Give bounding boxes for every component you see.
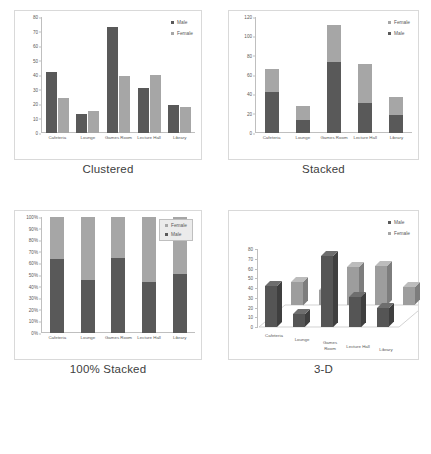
stacked-segment-female bbox=[265, 69, 279, 92]
stacked-legend: FemaleMale bbox=[388, 20, 410, 36]
stacked-bar-group bbox=[350, 17, 381, 133]
clustered-y-tick: 30 bbox=[33, 87, 38, 92]
hundred-plot-area: 0%10%20%30%40%50%60%70%80%90%100% Cafete… bbox=[15, 211, 201, 359]
chart-figure: 01020304050607080 CafeteriaLoungeGames R… bbox=[0, 0, 431, 454]
threed-bar-solid bbox=[291, 276, 310, 306]
clustered-legend-label: Male bbox=[177, 20, 187, 25]
stacked-segment-male bbox=[389, 115, 403, 133]
hundred-y-tick: 10% bbox=[29, 319, 38, 324]
hundred-caption: 100% Stacked bbox=[0, 363, 216, 375]
clustered-x-label: Lounge bbox=[73, 134, 104, 146]
clustered-plot-panel: 01020304050607080 CafeteriaLoungeGames R… bbox=[14, 10, 202, 160]
hundred-y-tick: 70% bbox=[29, 249, 38, 254]
threed-bar-female bbox=[375, 266, 387, 305]
hundred-legend-label: Female bbox=[171, 223, 187, 228]
clustered-y-tick: 0 bbox=[35, 131, 38, 136]
clustered-bar bbox=[46, 72, 57, 133]
hundred-x-label: Cafeteria bbox=[42, 334, 73, 346]
hundred-segment-female bbox=[111, 217, 125, 258]
stacked-x-label: Lounge bbox=[287, 134, 318, 146]
hundred-x-label: Lecture Hall bbox=[134, 334, 165, 346]
hundred-y-tick: 50% bbox=[29, 273, 38, 278]
legend-swatch-icon bbox=[388, 32, 391, 35]
threed-bar-solid bbox=[349, 291, 368, 328]
legend-swatch-icon bbox=[388, 221, 391, 224]
threed-x-label: Lecture Hall bbox=[345, 344, 371, 350]
panel-hundred-stacked: 0%10%20%30%40%50%60%70%80%90%100% Cafete… bbox=[0, 200, 216, 400]
threed-legend: MaleFemale bbox=[388, 220, 410, 236]
hundred-segment-male bbox=[173, 274, 187, 333]
clustered-bar bbox=[107, 27, 118, 133]
hundred-y-tick: 30% bbox=[29, 296, 38, 301]
stacked-y-axis: 020406080100120 bbox=[233, 17, 255, 133]
clustered-x-label: Cafeteria bbox=[42, 134, 73, 146]
panel-clustered: 01020304050607080 CafeteriaLoungeGames R… bbox=[0, 0, 216, 200]
clustered-legend-item: Male bbox=[171, 20, 193, 25]
clustered-legend-label: Female bbox=[177, 31, 193, 36]
hundred-legend-item: Female bbox=[165, 223, 187, 228]
legend-swatch-icon bbox=[165, 233, 168, 236]
legend-swatch-icon bbox=[171, 32, 174, 35]
stacked-x-label: Library bbox=[381, 134, 412, 146]
clustered-y-tick: 20 bbox=[33, 102, 38, 107]
hundred-y-tick: 40% bbox=[29, 284, 38, 289]
threed-bar-female bbox=[403, 287, 415, 305]
hundred-y-tick: 0% bbox=[31, 331, 38, 336]
clustered-bar bbox=[150, 75, 161, 133]
stacked-bar-group bbox=[318, 17, 349, 133]
stacked-x-label: Cafeteria bbox=[256, 134, 287, 146]
clustered-bar bbox=[168, 105, 179, 133]
stacked-plot-area: 020406080100120 CafeteriaLoungeGames Roo… bbox=[229, 11, 418, 159]
clustered-legend: MaleFemale bbox=[171, 20, 193, 36]
hundred-segment-female bbox=[142, 217, 156, 282]
clustered-y-axis: 01020304050607080 bbox=[19, 17, 41, 133]
clustered-x-label: Games Room bbox=[103, 134, 134, 146]
hundred-y-axis: 0%10%20%30%40%50%60%70%80%90%100% bbox=[19, 217, 41, 333]
clustered-bar-group bbox=[134, 17, 165, 133]
threed-bar-solid bbox=[265, 280, 284, 328]
clustered-caption: Clustered bbox=[0, 163, 216, 175]
stacked-plot-panel: 020406080100120 CafeteriaLoungeGames Roo… bbox=[228, 10, 419, 160]
clustered-x-labels: CafeteriaLoungeGames RoomLecture HallLib… bbox=[42, 134, 195, 146]
hundred-segment-male bbox=[50, 259, 64, 333]
panel-stacked: 020406080100120 CafeteriaLoungeGames Roo… bbox=[216, 0, 431, 200]
stacked-x-label: Games Room bbox=[318, 134, 349, 146]
clustered-bar bbox=[58, 98, 69, 133]
stacked-legend-item: Female bbox=[388, 20, 410, 25]
threed-x-label: Lounge bbox=[289, 337, 315, 343]
stacked-legend-label: Female bbox=[394, 20, 410, 25]
stacked-bar bbox=[327, 25, 341, 133]
threed-legend-item: Female bbox=[388, 231, 410, 236]
stacked-segment-female bbox=[358, 64, 372, 103]
stacked-y-tick: 20 bbox=[247, 111, 252, 116]
stacked-segment-male bbox=[296, 120, 310, 133]
legend-swatch-icon bbox=[165, 224, 168, 227]
legend-swatch-icon bbox=[388, 21, 391, 24]
threed-bar-male bbox=[265, 286, 277, 327]
stacked-segment-female bbox=[389, 97, 403, 114]
threed-legend-label: Female bbox=[394, 231, 410, 236]
clustered-bar bbox=[180, 107, 191, 133]
threed-bar-male bbox=[349, 297, 361, 327]
hundred-bar-group bbox=[42, 217, 73, 333]
stacked-bar bbox=[296, 106, 310, 133]
hundred-bar-group bbox=[103, 217, 134, 333]
clustered-bar bbox=[76, 114, 87, 133]
hundred-bar-group bbox=[73, 217, 104, 333]
clustered-y-tick: 10 bbox=[33, 116, 38, 121]
clustered-x-label: Lecture Hall bbox=[134, 134, 165, 146]
hundred-y-tick: 20% bbox=[29, 307, 38, 312]
hundred-legend-item: Male bbox=[165, 232, 187, 237]
stacked-y-tick: 0 bbox=[249, 131, 252, 136]
clustered-bar-group bbox=[42, 17, 73, 133]
hundred-plot-panel: 0%10%20%30%40%50%60%70%80%90%100% Cafete… bbox=[14, 210, 202, 360]
stacked-legend-item: Male bbox=[388, 31, 410, 36]
stacked-y-tick: 40 bbox=[247, 92, 252, 97]
threed-bar-male bbox=[321, 256, 333, 327]
clustered-bar-group bbox=[73, 17, 104, 133]
stacked-bar-group bbox=[256, 17, 287, 133]
stacked-bar bbox=[265, 69, 279, 133]
threed-bar-solid bbox=[377, 302, 396, 328]
chart-grid: 01020304050607080 CafeteriaLoungeGames R… bbox=[0, 0, 431, 400]
hundred-bar bbox=[81, 217, 95, 333]
